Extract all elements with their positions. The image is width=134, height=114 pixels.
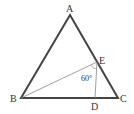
label-e: E <box>99 55 105 66</box>
geometry-diagram: A B C D E 60° <box>0 0 134 114</box>
angle-60-label: 60° <box>81 74 92 83</box>
label-b: B <box>10 93 17 104</box>
label-a: A <box>66 3 74 14</box>
label-d: D <box>91 101 98 112</box>
angle-arc <box>91 65 97 69</box>
label-c: C <box>120 93 127 104</box>
segment-ed <box>95 62 97 98</box>
